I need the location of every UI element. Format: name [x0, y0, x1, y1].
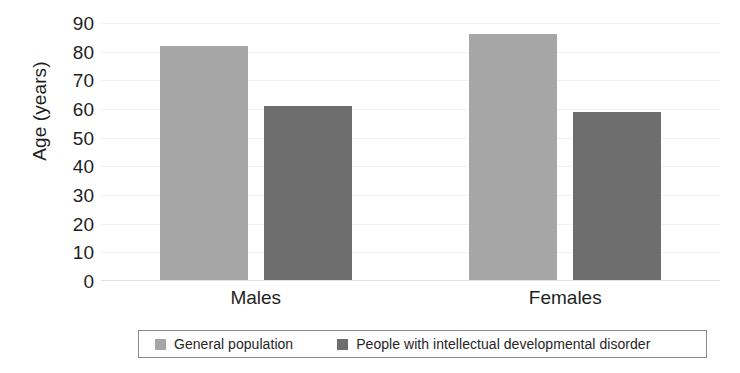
y-axis-tick-label: 10	[46, 243, 94, 262]
legend-swatch-icon	[337, 339, 348, 350]
x-axis-category-labels: MalesFemales	[101, 287, 720, 315]
bar	[469, 34, 557, 281]
legend-swatch-icon	[155, 339, 166, 350]
legend-item: People with intellectual developmental d…	[337, 336, 650, 352]
chart-legend: General populationPeople with intellectu…	[138, 330, 707, 358]
y-axis-tick-labels: 9080706050403020100	[46, 0, 94, 373]
y-axis-tick-label: 80	[46, 42, 94, 61]
y-axis-tick-label: 70	[46, 71, 94, 90]
y-axis-tick-label: 0	[46, 272, 94, 291]
bar	[264, 106, 352, 281]
bar-chart: Age (years) 9080706050403020100 MalesFem…	[0, 0, 740, 373]
plot-area	[101, 23, 720, 281]
bar	[573, 112, 661, 281]
y-axis-tick-label: 30	[46, 186, 94, 205]
y-axis-tick-label: 60	[46, 100, 94, 119]
x-axis-line	[101, 280, 720, 281]
y-axis-tick-label: 50	[46, 128, 94, 147]
gridline	[101, 23, 720, 24]
y-axis-tick-label: 90	[46, 14, 94, 33]
y-axis-tick-label: 20	[46, 214, 94, 233]
legend-label: General population	[174, 336, 293, 352]
legend-label: People with intellectual developmental d…	[356, 336, 650, 352]
legend-item: General population	[155, 336, 293, 352]
bar	[160, 46, 248, 281]
x-axis-category-label: Males	[230, 287, 281, 309]
y-axis-tick-label: 40	[46, 157, 94, 176]
x-axis-category-label: Females	[529, 287, 602, 309]
